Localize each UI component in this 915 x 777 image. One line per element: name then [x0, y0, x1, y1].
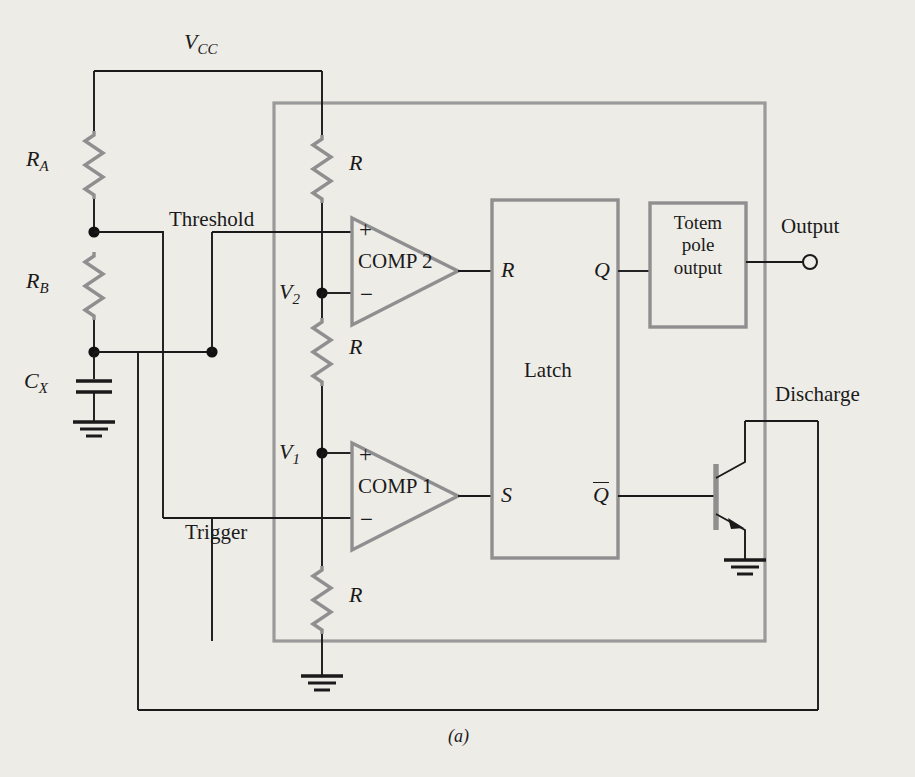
figure-caption: (a)	[448, 726, 469, 747]
latch-output-q-label: Q	[594, 257, 610, 283]
label-r-mid: R	[349, 334, 362, 360]
comp2-label: COMP 2	[358, 249, 433, 274]
latch-input-r-label: R	[501, 257, 514, 283]
comp2-plus-sign: +	[359, 217, 372, 243]
comp1-plus-sign: +	[359, 442, 372, 468]
label-cx: CX	[24, 368, 48, 397]
output-terminal	[803, 255, 817, 269]
comp1-minus-sign: −	[360, 507, 373, 533]
comp2-minus-sign: −	[360, 282, 373, 308]
comp1-label: COMP 1	[358, 474, 433, 499]
label-ra: RA	[26, 146, 49, 175]
label-v1: V1	[279, 439, 300, 468]
label-r-top: R	[349, 150, 362, 176]
label-rb: RB	[26, 268, 49, 297]
totem-pole-line-1: Totem	[650, 212, 746, 234]
figure-canvas: VCC RA RB CX R R R V2 V1 Threshold Trigg…	[0, 0, 915, 777]
resistor-rb	[85, 252, 103, 320]
latch-output-qbar-label: Q	[593, 482, 609, 508]
latch-input-s-label: S	[501, 482, 512, 508]
capacitor-cx	[76, 352, 112, 422]
label-trigger-pin: Trigger	[185, 520, 247, 545]
totem-pole-line-2: pole	[650, 234, 746, 256]
transistor-discharge	[716, 421, 745, 560]
wire-trigger	[163, 352, 352, 518]
ic-boundary-box	[274, 103, 765, 641]
resistor-internal-mid	[313, 318, 331, 386]
totem-pole-label: Totem pole output	[650, 212, 746, 279]
latch-title: Latch	[524, 358, 572, 383]
ground-symbol-ic	[301, 676, 343, 690]
resistor-internal-bottom	[313, 566, 331, 634]
ground-symbol-transistor	[724, 560, 766, 574]
label-v2: V2	[279, 279, 300, 308]
label-discharge-pin: Discharge	[775, 382, 860, 407]
wire-node-to-threshold-feed	[94, 232, 163, 352]
resistor-internal-top	[313, 135, 331, 203]
label-threshold-pin: Threshold	[169, 207, 254, 232]
resistor-ra	[85, 131, 103, 199]
label-vcc: VCC	[184, 29, 217, 58]
label-output-pin: Output	[781, 214, 839, 239]
totem-pole-line-3: output	[650, 257, 746, 279]
label-r-bottom: R	[349, 582, 362, 608]
ground-symbol-cx	[73, 422, 115, 436]
